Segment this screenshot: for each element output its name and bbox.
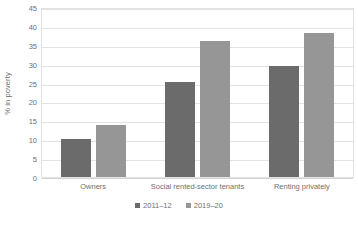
bars-layer [42, 9, 353, 177]
bar[interactable] [304, 33, 334, 177]
bar-group [146, 9, 250, 177]
y-axis-title: % in poverty [0, 0, 14, 186]
bar[interactable] [61, 139, 91, 177]
legend-label: 2011–12 [143, 201, 172, 210]
chart-legend: 2011–122019–20 [0, 198, 358, 212]
bar[interactable] [165, 82, 195, 177]
y-tick-label: 10 [29, 136, 37, 145]
y-tick-label: 0 [33, 174, 37, 183]
axis-baseline [42, 178, 353, 179]
x-axis-label: Social rented-sector tenants [145, 180, 249, 194]
bar-group [249, 9, 353, 177]
y-tick-label: 30 [29, 60, 37, 69]
y-tick-label: 40 [29, 22, 37, 31]
y-tick-label: 35 [29, 41, 37, 50]
plot-area [41, 8, 354, 178]
legend-swatch-icon [186, 203, 191, 208]
bar-group [42, 9, 146, 177]
x-axis-category-labels: OwnersSocial rented-sector tenantsRentin… [41, 180, 354, 194]
bar[interactable] [269, 66, 299, 177]
legend-label: 2019–20 [194, 201, 223, 210]
bar[interactable] [96, 125, 126, 178]
y-tick-label: 25 [29, 79, 37, 88]
y-axis-tick-labels: 051015202530354045 [14, 8, 40, 178]
legend-item[interactable]: 2011–12 [135, 201, 172, 210]
y-tick-label: 15 [29, 117, 37, 126]
y-axis-title-text: % in poverty [3, 72, 12, 114]
bar[interactable] [200, 41, 230, 177]
y-tick-label: 5 [33, 155, 37, 164]
x-axis-label: Owners [41, 180, 145, 194]
y-tick-label: 45 [29, 4, 37, 13]
y-tick-label: 20 [29, 98, 37, 107]
bar-chart: % in poverty 051015202530354045 OwnersSo… [0, 0, 358, 226]
legend-swatch-icon [135, 203, 140, 208]
x-axis-label: Renting privately [250, 180, 354, 194]
legend-item[interactable]: 2019–20 [186, 201, 223, 210]
